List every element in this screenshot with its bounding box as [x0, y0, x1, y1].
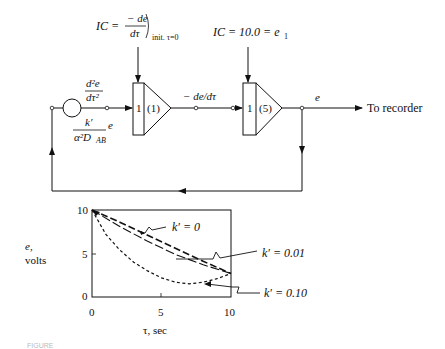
analog-computer-figure: IC = − de dτ init. τ=0 IC = 10.0 = e 1 d… — [0, 0, 445, 349]
ic1-numerator: − de — [127, 12, 148, 24]
integrator2-gain: 1 — [247, 102, 253, 114]
integrator-1: 1 (1) — [133, 83, 171, 135]
ic2-text: IC = 10.0 = e — [212, 25, 280, 39]
node — [194, 106, 198, 110]
node — [105, 106, 109, 110]
integrator1-id: (1) — [147, 102, 160, 115]
feedback-down-arrow-icon — [299, 146, 305, 154]
output-signal-label: e — [315, 91, 320, 103]
figure-caption-fragment: FIGURE — [27, 342, 54, 349]
y-axis-label-symbol: e, — [25, 240, 33, 252]
input-node — [50, 106, 54, 110]
annotation-k0: k′ = 0 — [172, 220, 200, 234]
d2e-numerator: d²e — [86, 77, 100, 89]
series-k010 — [92, 210, 231, 284]
k-denominator-sub: AB — [95, 136, 106, 145]
x-tick-label-5: 5 — [158, 306, 164, 318]
k-denominator: α²D — [74, 131, 91, 143]
response-chart: 10 5 0 0 5 10 e, volts τ, sec k′ = 0 k′ … — [25, 204, 307, 336]
node — [231, 106, 235, 110]
integrator-2: 1 (5) — [243, 83, 282, 135]
ic1-lhs: IC = — [95, 19, 119, 33]
x-tick-label-10: 10 — [224, 306, 236, 318]
k-suffix: e — [108, 119, 113, 131]
output-node — [300, 106, 304, 110]
ic2-subscript: 1 — [284, 32, 288, 41]
leader-k010 — [207, 284, 260, 293]
ic1-label: IC = − de dτ init. τ=0 — [95, 12, 178, 42]
x-tick-label-0: 0 — [89, 306, 95, 318]
block-diagram: IC = − de dτ init. τ=0 IC = 10.0 = e 1 d… — [49, 12, 422, 194]
first-derivative-label: − de/dτ — [183, 90, 217, 102]
ic2-label: IC = 10.0 = e 1 — [212, 25, 288, 41]
annotation-k001: k′ = 0.01 — [262, 246, 305, 260]
k-numerator: k′ — [85, 116, 93, 128]
to-recorder-label: To recorder — [367, 101, 422, 115]
y-tick-label-10: 10 — [77, 204, 89, 216]
leader-k0-arrow-icon — [141, 231, 145, 235]
integrator2-id: (5) — [259, 102, 272, 115]
feedback-left-arrow-icon — [178, 188, 186, 194]
y-axis-label-unit: volts — [25, 254, 46, 266]
leader-k0 — [140, 227, 166, 233]
ic1-denominator: dτ — [130, 27, 141, 39]
coefficient-label: k′ α²D AB e — [73, 116, 113, 145]
integrator1-gain: 1 — [136, 102, 142, 114]
coefficient-potentiometer — [63, 99, 81, 117]
ic1-subscript: init. τ=0 — [152, 33, 178, 42]
y-tick-label-5: 5 — [82, 248, 88, 260]
y-tick-label-0: 0 — [82, 290, 88, 302]
series-k0 — [92, 210, 231, 274]
x-axis-label: τ, sec — [143, 324, 167, 336]
feedback-up-arrow-icon — [49, 147, 55, 155]
annotation-k010: k′ = 0.10 — [264, 286, 307, 300]
second-derivative-label: d²e dτ² — [85, 77, 103, 103]
d2e-denominator: dτ² — [86, 91, 99, 103]
